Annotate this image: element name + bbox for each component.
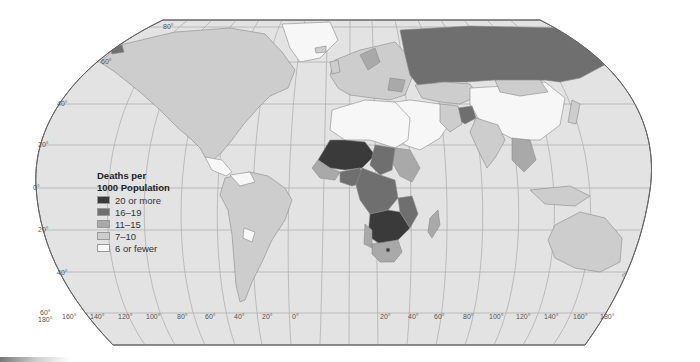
legend: Deaths per 1000 Population 20 or more 16… bbox=[97, 170, 170, 254]
latitude-label: 60° bbox=[40, 309, 51, 316]
legend-item: 20 or more bbox=[97, 194, 170, 206]
longitude-label: 160° bbox=[62, 313, 76, 320]
longitude-label: 40° bbox=[408, 313, 419, 320]
legend-label: 20 or more bbox=[115, 195, 161, 206]
legend-swatch-20-or-more bbox=[97, 196, 110, 204]
longitude-label: 60° bbox=[434, 313, 445, 320]
longitude-label: 180° bbox=[38, 316, 52, 323]
legend-swatch-7-10 bbox=[97, 232, 110, 240]
legend-title-line1: Deaths per bbox=[97, 170, 170, 182]
longitude-label: 60° bbox=[205, 313, 216, 320]
legend-swatch-6-or-fewer bbox=[97, 244, 110, 252]
legend-title-line2: 1000 Population bbox=[97, 182, 170, 194]
legend-swatch-16-19 bbox=[97, 208, 110, 216]
longitude-label: 40° bbox=[234, 313, 245, 320]
longitude-label: 0° bbox=[292, 313, 299, 320]
latitude-label: 60° bbox=[101, 58, 112, 65]
longitude-label: 140° bbox=[544, 313, 558, 320]
legend-label: 7–10 bbox=[115, 231, 136, 242]
bottom-gradient-bar bbox=[0, 357, 70, 362]
longitude-label: 100° bbox=[489, 313, 503, 320]
legend-item: 6 or fewer bbox=[97, 242, 170, 254]
legend-label: 6 or fewer bbox=[115, 243, 157, 254]
latitude-label: 80° bbox=[163, 23, 174, 30]
legend-label: 11–15 bbox=[115, 219, 141, 230]
longitude-label: 80° bbox=[463, 313, 474, 320]
latitude-label: 40° bbox=[57, 100, 68, 107]
legend-label: 16–19 bbox=[115, 207, 141, 218]
longitude-label: 100° bbox=[146, 313, 160, 320]
longitude-label: 180° bbox=[600, 313, 614, 320]
legend-item: 11–15 bbox=[97, 218, 170, 230]
longitude-label: 80° bbox=[177, 313, 188, 320]
latitude-label: 20° bbox=[38, 226, 49, 233]
latitude-label: 40° bbox=[57, 269, 68, 276]
longitude-label: 160° bbox=[573, 313, 587, 320]
longitude-label: 120° bbox=[118, 313, 132, 320]
legend-item: 16–19 bbox=[97, 206, 170, 218]
legend-swatch-11-15 bbox=[97, 220, 110, 228]
latitude-label: 20° bbox=[38, 141, 49, 148]
latitude-label: 0° bbox=[33, 184, 40, 191]
longitude-label: 140° bbox=[90, 313, 104, 320]
longitude-label: 20° bbox=[380, 313, 391, 320]
longitude-label: 120° bbox=[516, 313, 530, 320]
legend-item: 7–10 bbox=[97, 230, 170, 242]
longitude-label: 20° bbox=[262, 313, 273, 320]
